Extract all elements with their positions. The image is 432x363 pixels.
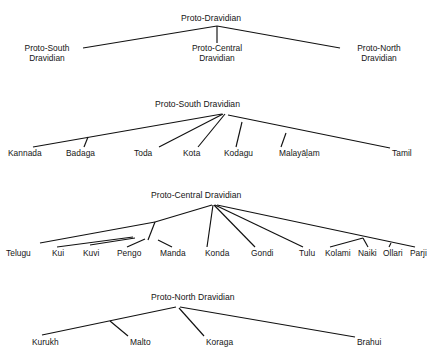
branch-south-to-kodagu	[236, 122, 242, 147]
node-malto: Malto	[130, 338, 151, 348]
branch-central-to-pengo	[127, 239, 145, 247]
branch-central-spine-left	[155, 205, 212, 222]
node-kolami: Kolami	[325, 249, 351, 259]
branch-south-to-toda	[159, 114, 223, 147]
branch-central-to-ollari	[389, 243, 391, 247]
node-telugu: Telugu	[6, 249, 31, 259]
node-proto-central-dravidian-line1: Proto-Central	[192, 43, 242, 53]
branch-north-to-kurukh	[42, 307, 176, 335]
branch-south-to-kota	[198, 114, 225, 147]
node-proto-south-dravidian-root: Proto-South Dravidian	[155, 100, 240, 110]
figure-canvas: Proto-Dravidian Proto-South Dravidian Pr…	[0, 0, 432, 363]
node-kodagu: Kodagu	[224, 149, 253, 159]
node-ollari: Ollari	[383, 249, 403, 259]
node-malayalam: Malayāḷam	[279, 149, 320, 159]
node-proto-central-dravidian: Proto-Central Dravidian	[180, 44, 254, 63]
node-kurukh: Kurukh	[32, 338, 59, 348]
node-toda: Toda	[134, 149, 152, 159]
node-proto-dravidian: Proto-Dravidian	[181, 14, 241, 24]
branch-central-to-kolami	[330, 238, 363, 247]
node-brahui: Brahui	[357, 338, 381, 348]
node-kota: Kota	[183, 149, 200, 159]
node-konda: Konda	[205, 249, 229, 259]
node-badaga: Badaga	[66, 149, 95, 159]
node-proto-south-dravidian-line1: Proto-South	[25, 43, 70, 53]
branch-central-to-konda	[207, 205, 213, 247]
node-proto-north-dravidian-root: Proto-North Dravidian	[151, 293, 235, 303]
branch-central-to-kui	[57, 237, 133, 247]
node-manda: Manda	[160, 249, 186, 259]
node-tulu: Tulu	[299, 249, 315, 259]
node-proto-south-dravidian-line2: Dravidian	[29, 53, 65, 63]
node-pengo: Pengo	[117, 249, 141, 259]
branch-central-nodeA-to-nodeB	[148, 222, 155, 240]
node-koraga: Koraga	[206, 338, 233, 348]
branch-north-to-koraga	[179, 308, 204, 336]
branch-north-to-brahui	[180, 307, 355, 337]
branch-central-to-telugu	[40, 222, 155, 243]
tree-4-branches	[42, 307, 355, 337]
tree-2-branches	[33, 114, 390, 148]
branch-south-to-kannada	[33, 114, 222, 147]
node-kui: Kui	[52, 249, 64, 259]
node-proto-central-dravidian-line2: Dravidian	[199, 53, 235, 63]
branch-north-to-malto	[110, 321, 128, 336]
node-naiki: Naiki	[358, 249, 377, 259]
node-proto-north-dravidian: Proto-North Dravidian	[342, 44, 416, 63]
node-tamil: Tamil	[392, 149, 412, 159]
branch-south-to-malayalam	[281, 133, 286, 147]
tree-3-branches	[40, 205, 415, 247]
node-parji: Parji	[410, 249, 427, 259]
node-proto-north-dravidian-line1: Proto-North	[357, 43, 401, 53]
node-kannada: Kannada	[8, 149, 42, 159]
branch-central-to-tulu	[215, 205, 303, 247]
node-kuvi: Kuvi	[83, 249, 99, 259]
branch-south-to-badaga	[84, 137, 88, 147]
branch-central-spine-right	[217, 205, 415, 247]
branch-south-to-tamil	[228, 115, 390, 148]
branch-central-to-gondi	[214, 205, 255, 247]
branch-central-to-manda	[158, 240, 172, 247]
node-proto-north-dravidian-line2: Dravidian	[361, 53, 397, 63]
branch-central-to-naiki	[363, 238, 368, 247]
node-gondi: Gondi	[251, 249, 273, 259]
node-proto-central-dravidian-root: Proto-Central Dravidian	[151, 191, 241, 201]
branch-central-to-kuvi	[90, 238, 135, 245]
node-proto-south-dravidian: Proto-South Dravidian	[10, 44, 84, 63]
